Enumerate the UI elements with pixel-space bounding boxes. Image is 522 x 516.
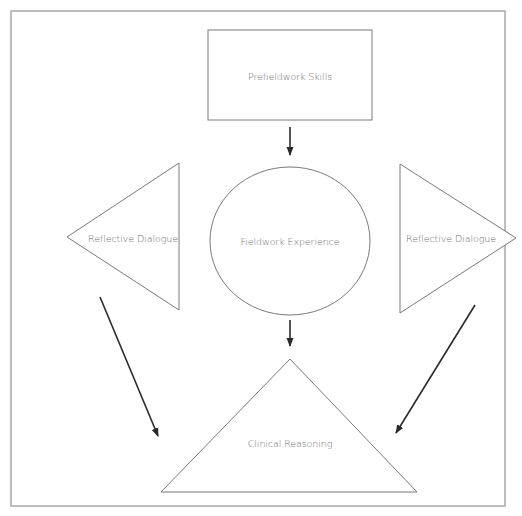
prefieldwork-skills-label: Prefieldwork Skills: [248, 71, 332, 82]
reflective-dialogue-right-label: Reflective Dialogue: [406, 233, 496, 244]
arrow-reflective-left-to-clinical: [100, 297, 158, 436]
reflective-dialogue-left-label: Reflective Dialogue: [88, 233, 178, 244]
fieldwork-experience-label: Fieldwork Experience: [241, 236, 340, 247]
arrow-reflective-right-to-clinical: [396, 305, 475, 433]
clinical-reasoning-triangle: [161, 359, 417, 492]
diagram-canvas: Prefieldwork Skills Fieldwork Experience…: [0, 0, 522, 516]
clinical-reasoning-label: Clinical Reasoning: [248, 438, 332, 449]
